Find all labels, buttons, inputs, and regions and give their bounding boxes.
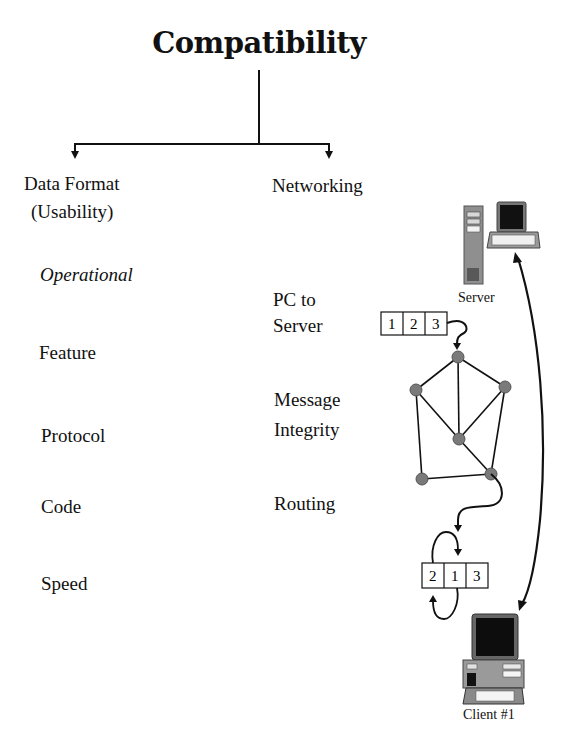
arrow-down-left-icon <box>71 151 79 159</box>
arrow-head-down-icon <box>518 600 527 611</box>
arrow-down-right-icon <box>325 151 333 159</box>
arrow-head-icon <box>454 525 462 532</box>
server-client-link-arrow <box>518 258 543 604</box>
packet-cell: 1 <box>388 316 396 332</box>
routing-arrow <box>458 474 502 526</box>
server-label: Server <box>458 290 495 305</box>
packet-cell: 1 <box>451 568 459 584</box>
packet-to-network-arrow <box>447 321 467 344</box>
arrow-head-icon <box>454 549 462 556</box>
arrow-head-up-icon <box>513 252 522 263</box>
reorder-loop-bottom-arrow <box>433 588 458 619</box>
packet-cell: 3 <box>473 568 481 584</box>
network-nodes <box>410 351 511 485</box>
packet-cell: 2 <box>429 568 437 584</box>
packet-cell: 2 <box>410 316 418 332</box>
reorder-loop-top-arrow <box>432 532 458 563</box>
client-computer-icon <box>463 614 524 704</box>
server-computer-icon <box>464 202 540 284</box>
packet-sent: 1 2 3 <box>381 312 447 335</box>
diagram-canvas: Server 1 2 3 2 <box>0 0 565 731</box>
arrow-head-icon <box>453 343 461 350</box>
packet-received: 2 1 3 <box>422 563 488 588</box>
tree-connector <box>74 70 330 152</box>
packet-cell: 3 <box>432 316 440 332</box>
network-graph <box>416 357 505 479</box>
client-label: Client #1 <box>463 707 515 722</box>
arrow-head-icon <box>429 595 437 602</box>
